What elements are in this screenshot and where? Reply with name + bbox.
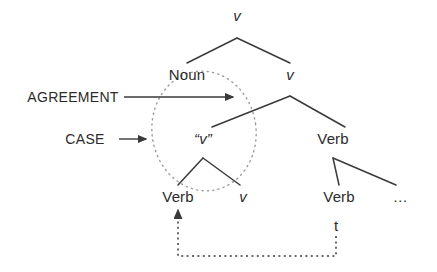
branch-quotedv-to-v xyxy=(203,158,240,185)
node-verb-right-upper: Verb xyxy=(317,131,348,146)
node-lower-v: v xyxy=(239,189,247,204)
label-agreement: AGREEMENT xyxy=(27,90,118,104)
node-ellipsis: … xyxy=(393,189,410,204)
node-verb-lower-left: Verb xyxy=(162,189,193,204)
node-root-v: v xyxy=(233,8,241,23)
branch-verbright-to-verb xyxy=(333,158,339,185)
branch-verbright-to-ellipsis xyxy=(333,158,396,185)
branch-quotedv-to-verb xyxy=(178,158,203,185)
label-case: CASE xyxy=(65,132,104,146)
node-level2-v: v xyxy=(286,67,294,82)
branch-level2v-to-verbright xyxy=(290,96,345,127)
movement-arrow xyxy=(178,210,336,256)
node-trace-t: t xyxy=(334,218,338,233)
tree-branch-lines xyxy=(178,38,396,185)
syntax-tree-diagram: v Noun v “v” Verb Verb v Verb … t AGREEM… xyxy=(0,0,437,272)
node-quoted-v: “v” xyxy=(194,131,212,146)
branch-root-to-level2v xyxy=(237,38,290,63)
node-noun: Noun xyxy=(169,67,205,82)
node-verb-lower-right: Verb xyxy=(323,189,354,204)
branch-root-to-noun xyxy=(187,38,237,63)
branch-level2v-to-quotedv xyxy=(212,96,290,127)
